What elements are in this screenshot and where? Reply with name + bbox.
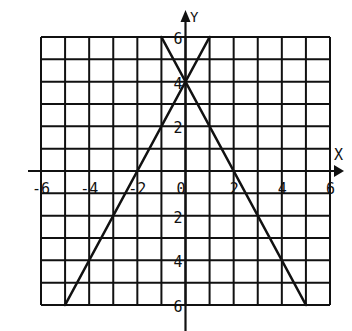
coordinate-graph: -6-4-20246642246 X Y bbox=[0, 0, 352, 331]
y-tick-label: 6 bbox=[174, 30, 183, 48]
y-tick-label: 4 bbox=[174, 75, 183, 93]
x-axis-label: X bbox=[334, 146, 343, 164]
x-tick-label: 2 bbox=[230, 180, 239, 198]
x-tick-label: -6 bbox=[32, 180, 50, 198]
x-axis-arrow-icon bbox=[334, 165, 344, 177]
x-tick-label: 0 bbox=[177, 180, 186, 198]
x-tick-label: -4 bbox=[80, 180, 98, 198]
x-tick-label: -2 bbox=[128, 180, 146, 198]
x-tick-label: 6 bbox=[326, 180, 335, 198]
y-tick-label: 2 bbox=[174, 209, 183, 227]
y-tick-label: 2 bbox=[174, 119, 183, 137]
y-axis-label: Y bbox=[190, 9, 199, 25]
y-tick-label: 6 bbox=[174, 298, 183, 316]
y-tick-label: 4 bbox=[174, 253, 183, 271]
plot-svg: -6-4-20246642246 X Y bbox=[0, 0, 352, 331]
x-tick-label: 4 bbox=[278, 180, 287, 198]
y-axis-arrow-icon bbox=[181, 10, 191, 22]
